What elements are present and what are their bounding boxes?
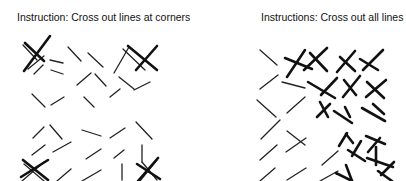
crossed-line [321,78,337,95]
target-line [260,75,278,89]
target-line [82,170,101,181]
target-line [34,65,43,74]
target-line [134,82,150,90]
crossed-line [348,150,365,161]
target-line [82,130,101,136]
target-line [77,73,91,85]
target-line [287,97,305,113]
target-line [50,125,62,139]
crossed-line [360,59,378,70]
target-line [114,150,124,158]
crossed-line [24,36,50,71]
target-line [51,97,64,105]
target-line [86,149,101,159]
target-line [136,122,152,139]
target-line [110,89,120,97]
target-line [119,77,134,89]
target-line [261,120,280,139]
target-line [33,127,44,138]
target-line [260,50,277,65]
target-line [322,151,338,165]
target-line [68,47,81,61]
target-line [95,74,106,86]
target-line [53,142,71,152]
target-line [282,82,305,88]
left-panel-lines [21,36,160,181]
target-line [32,94,45,107]
target-line [260,168,275,181]
target-line [257,100,276,117]
target-line [51,70,63,74]
target-line [260,145,277,160]
crossed-line [343,76,360,97]
target-line [110,128,125,138]
target-line [32,145,45,155]
target-line [84,97,94,107]
crossed-line [373,104,384,114]
crossed-line [346,134,353,143]
target-line [88,53,103,67]
line-cancellation-figure [0,0,406,181]
target-line [50,60,63,63]
target-line [286,138,306,152]
target-line [287,168,306,180]
crossed-line [345,107,350,117]
right-panel-lines [257,48,394,181]
target-line [287,131,305,145]
target-line [57,169,71,181]
target-line [114,47,129,73]
crossed-line [362,108,385,121]
